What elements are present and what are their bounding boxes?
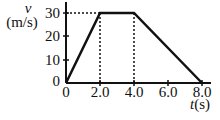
x-axis-label-unit: (s) — [194, 96, 210, 113]
x-tick-label-6: 6.0 — [159, 84, 178, 100]
x-tick-label-4: 4.0 — [125, 84, 144, 100]
y-tick-label-10: 10 — [45, 52, 60, 68]
velocity-time-graph: 30 20 10 0 0 2.0 4.0 6.0 8.0 v (m/s) t(s… — [0, 0, 220, 120]
x-tick-label-0: 0 — [62, 84, 70, 100]
x-tick-label-2: 2.0 — [91, 84, 110, 100]
velocity-series-line — [66, 13, 202, 83]
y-tick-label-20: 20 — [45, 28, 60, 44]
y-axis-label-unit: (m/s) — [6, 14, 38, 31]
dotted-guides — [66, 13, 134, 83]
x-axis-label: t(s) — [190, 96, 210, 113]
y-tick-label-0: 0 — [53, 73, 61, 89]
y-tick-label-30: 30 — [45, 5, 60, 21]
